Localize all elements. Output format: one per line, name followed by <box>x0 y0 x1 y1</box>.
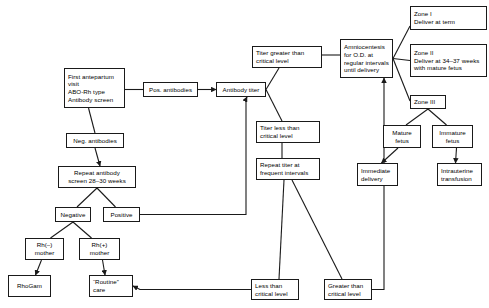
node-rhogam[interactable]: RhoGam <box>8 275 51 297</box>
node-positive[interactable]: Positive <box>103 207 140 222</box>
node-repeat_antibody[interactable]: Repeat antibody screen 28–30 weeks <box>58 166 136 188</box>
node-label: Repeat antibody screen 28–30 weeks <box>68 169 126 184</box>
node-label: Greater than critical level <box>328 282 368 297</box>
edge <box>73 222 92 238</box>
edge <box>89 108 96 133</box>
node-amniocentesis[interactable]: Amniocentesis for O.D. at regular interv… <box>340 39 393 78</box>
node-greater_than_crit[interactable]: Greater than critical level <box>324 279 372 300</box>
node-label: Negative <box>61 211 86 219</box>
node-label: Antibody titer <box>223 86 260 94</box>
node-neg_antibodies[interactable]: Neg. antibodies <box>66 133 124 148</box>
edge <box>140 97 247 215</box>
edge <box>266 68 279 90</box>
node-mature_fetus[interactable]: Mature fetus <box>383 125 421 148</box>
node-label: Rh(–) mother <box>35 241 55 256</box>
node-label: Titer greater than critical level <box>256 49 318 64</box>
edge <box>393 59 410 102</box>
node-rh_pos_mother[interactable]: Rh(+) mother <box>79 238 120 260</box>
node-label: Intrauterine transfusion <box>441 167 478 182</box>
node-immature_fetus[interactable]: Immature fetus <box>432 125 473 148</box>
edge <box>279 180 284 279</box>
node-label: Mature fetus <box>392 129 412 144</box>
node-titer_greater[interactable]: Titer greater than critical level <box>252 46 322 68</box>
node-antibody_titer[interactable]: Antibody titer <box>216 82 266 97</box>
node-negative[interactable]: Negative <box>55 207 91 222</box>
node-routine_care[interactable]: “Routine” care <box>89 275 133 297</box>
edge <box>133 286 251 290</box>
edge <box>428 109 447 125</box>
node-label: “Routine” care <box>93 278 129 293</box>
node-rh_neg_mother[interactable]: Rh(–) mother <box>25 238 64 260</box>
node-zone_1[interactable]: Zone I Deliver at term <box>410 6 487 30</box>
node-titer_less[interactable]: Titer less than critical level <box>256 121 320 143</box>
node-label: Titer less than critical level <box>260 124 316 139</box>
node-zone_3[interactable]: Zone III <box>410 95 446 109</box>
node-label: RhoGam <box>17 282 42 290</box>
node-repeat_titer[interactable]: Repeat titer at frequent intervals <box>256 158 320 180</box>
node-label: Less than critical level <box>255 282 295 297</box>
node-label: Repeat titer at frequent intervals <box>260 161 316 176</box>
node-label: Immediate delivery <box>361 167 394 182</box>
node-label: Amniocentesis for O.D. at regular interv… <box>344 43 389 73</box>
edge <box>393 26 410 59</box>
node-pos_antibodies[interactable]: Pos. antibodies <box>143 82 198 97</box>
node-label: Zone I Deliver at term <box>414 10 483 25</box>
edge <box>103 260 106 275</box>
edge <box>77 188 97 207</box>
edge <box>95 148 100 166</box>
edge <box>292 180 342 279</box>
node-label: Positive <box>110 211 132 219</box>
edge <box>97 188 116 207</box>
edge <box>266 90 282 122</box>
node-label: Zone III <box>414 98 442 106</box>
edge <box>406 109 428 125</box>
node-label: Pos. antibodies <box>149 86 192 94</box>
node-label: Neg. antibodies <box>73 137 117 145</box>
edge <box>51 222 74 238</box>
node-immediate_delivery[interactable]: Immediate delivery <box>357 163 398 186</box>
node-less_than_crit[interactable]: Less than critical level <box>251 279 299 300</box>
node-label: Immature fetus <box>439 129 466 144</box>
flowchart-canvas: First antepartum visit ABO-Rh type Antib… <box>0 0 489 308</box>
edge <box>456 148 457 163</box>
node-label: Zone II Deliver at 34–37 weeks with matu… <box>414 49 483 72</box>
node-label: Rh(+) mother <box>90 241 110 256</box>
node-first_visit[interactable]: First antepartum visit ABO-Rh type Antib… <box>64 68 125 108</box>
edge <box>36 260 42 275</box>
edge <box>393 59 410 61</box>
node-iu_transfusion[interactable]: Intrauterine transfusion <box>437 163 482 186</box>
node-label: First antepartum visit ABO-Rh type Antib… <box>68 73 121 103</box>
node-zone_2[interactable]: Zone II Deliver at 34–37 weeks with matu… <box>410 44 487 77</box>
